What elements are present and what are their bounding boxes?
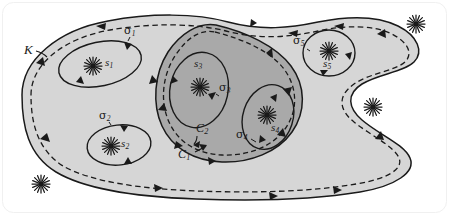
label-s-1: s1 [105,57,113,70]
label-s-4: s4 [271,122,279,135]
singularity-star-s1 [84,57,102,75]
exterior-star-bottom-left [32,175,50,193]
label-s-2: s2 [121,138,129,151]
label-sigma-4: σ4 [236,129,248,142]
label-sigma-2: σ2 [99,110,111,123]
label-sigma-1: σ1 [124,25,136,38]
figure-canvas: K σ1 σ2 σ3 σ4 σ5 s1 s2 s3 s4 s5 C1 C2 [0,0,449,215]
label-C-1: C1 [178,148,190,162]
diagram-svg [0,0,449,215]
label-s-5: s5 [323,58,331,71]
label-C-2: C2 [196,122,208,136]
singularity-star-s3 [191,78,209,96]
label-sigma-5: σ5 [293,35,305,48]
label-sigma-3: σ3 [219,82,231,95]
label-s-3: s3 [194,58,202,71]
label-K: K [24,43,33,56]
exterior-star-right [364,98,382,116]
singularity-star-s2 [102,137,120,155]
exterior-star-top-right [407,15,425,33]
